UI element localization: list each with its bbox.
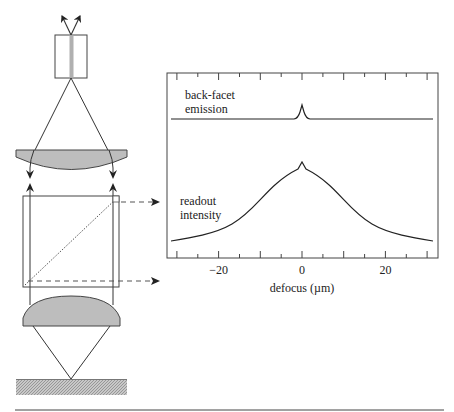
- x-tick-label: 0: [299, 263, 305, 277]
- beam-splitter-cube: [23, 196, 119, 287]
- x-tick-label: 20: [379, 263, 391, 277]
- x-tick-label: −20: [209, 263, 228, 277]
- figure-canvas: −20 0 20 defocus (µm) back-facet emissio…: [0, 0, 454, 412]
- beam-focusing: [33, 326, 110, 379]
- emission-arrows-icon: [62, 16, 80, 35]
- dashed-arrow-to-plot-top: [121, 198, 160, 206]
- series-label-back-facet-line1: back-facet: [185, 88, 236, 102]
- beam-diverging: [30, 78, 113, 160]
- optical-setup: [16, 16, 160, 395]
- x-axis-label: defocus (µm): [270, 281, 335, 295]
- active-stripe: [70, 36, 74, 78]
- series-label-readout-line1: readout: [180, 194, 217, 208]
- dashed-arrow-to-plot-bottom: [28, 277, 160, 285]
- beam-collimated: [30, 150, 113, 305]
- recording-medium: [16, 379, 127, 395]
- defocus-plot: −20 0 20 defocus (µm) back-facet emissio…: [167, 73, 438, 295]
- objective-lens: [23, 296, 120, 326]
- beam-direction-arrows-icon: [26, 170, 117, 192]
- series-label-readout-line2: intensity: [180, 208, 221, 222]
- laser-diode: [55, 35, 87, 78]
- series-label-back-facet-line2: emission: [185, 102, 228, 116]
